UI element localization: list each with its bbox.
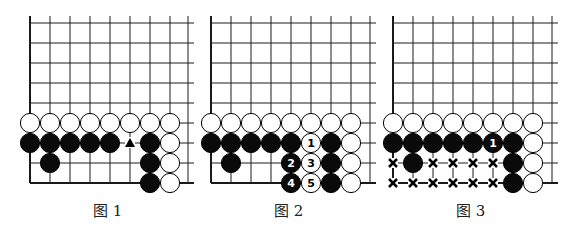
black-stone (423, 133, 442, 152)
white-stone: 1 (301, 133, 320, 152)
white-stone (140, 113, 159, 132)
white-stone (341, 113, 360, 132)
black-stone (383, 133, 402, 152)
black-stone (20, 133, 39, 152)
white-stone (523, 113, 542, 132)
black-stone (100, 133, 119, 152)
white-stone (20, 113, 39, 132)
black-stone (221, 153, 240, 172)
go-board-1 (20, 16, 194, 193)
go-board-3: 1 (383, 16, 558, 193)
white-stone (100, 113, 119, 132)
black-stone: 4 (281, 173, 300, 192)
move-number: 3 (307, 157, 315, 170)
white-stone (281, 113, 300, 132)
white-stone (341, 133, 360, 152)
black-stone (60, 133, 79, 152)
white-stone (120, 113, 139, 132)
black-stone (80, 133, 99, 152)
white-stone (221, 113, 240, 132)
white-stone: 5 (301, 173, 320, 192)
black-stone (503, 153, 522, 172)
move-number: 2 (287, 157, 295, 170)
white-stone (321, 113, 340, 132)
black-stone (281, 133, 300, 152)
go-diagrams: 123451 (0, 0, 579, 228)
black-stone (40, 133, 59, 152)
go-board-2: 12345 (201, 16, 376, 193)
black-stone (443, 133, 462, 152)
black-stone (321, 153, 340, 172)
black-stone (140, 173, 159, 192)
white-stone (383, 113, 402, 132)
white-stone (80, 113, 99, 132)
black-stone (321, 133, 340, 152)
black-stone (503, 173, 522, 192)
black-stone: 1 (483, 133, 502, 152)
black-stone (140, 153, 159, 172)
white-stone (483, 113, 502, 132)
black-stone (321, 173, 340, 192)
black-stone (261, 133, 280, 152)
white-stone (160, 113, 179, 132)
white-stone (423, 113, 442, 132)
white-stone (523, 173, 542, 192)
black-stone (221, 133, 240, 152)
black-stone (201, 133, 220, 152)
white-stone (523, 133, 542, 152)
black-stone (503, 133, 522, 152)
move-number: 5 (307, 177, 315, 190)
caption-figure-2: 图 2 (274, 199, 303, 220)
black-stone (241, 133, 260, 152)
white-stone (40, 113, 59, 132)
move-number: 1 (307, 137, 315, 150)
white-stone (160, 153, 179, 172)
white-stone (241, 113, 260, 132)
black-stone: 2 (281, 153, 300, 172)
black-stone (403, 153, 422, 172)
move-number: 4 (287, 177, 295, 190)
black-stone (463, 133, 482, 152)
black-stone (40, 153, 59, 172)
caption-figure-3: 图 3 (456, 199, 485, 220)
white-stone (60, 113, 79, 132)
move-number: 1 (489, 137, 497, 150)
caption-figure-1: 图 1 (93, 199, 122, 220)
white-stone (403, 113, 422, 132)
white-stone (341, 173, 360, 192)
white-stone (503, 113, 522, 132)
white-stone (523, 153, 542, 172)
black-stone (403, 133, 422, 152)
white-stone (301, 113, 320, 132)
white-stone (160, 133, 179, 152)
white-stone (463, 113, 482, 132)
white-stone (261, 113, 280, 132)
white-stone: 3 (301, 153, 320, 172)
white-stone (160, 173, 179, 192)
white-stone (341, 153, 360, 172)
white-stone (201, 113, 220, 132)
black-stone (140, 133, 159, 152)
white-stone (443, 113, 462, 132)
